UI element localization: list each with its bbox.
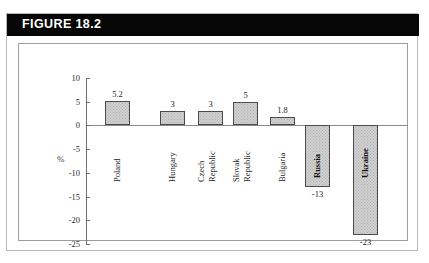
y-axis-tick-label: -15	[26, 193, 80, 201]
y-axis-tick	[86, 78, 90, 79]
bar-value-label: 5	[225, 91, 266, 100]
y-axis-tick-label: 10	[26, 74, 80, 82]
y-axis-tick-label: -25	[26, 240, 80, 248]
bar-category-label: Poland	[113, 159, 122, 183]
chart-plot-area: 1050-5-10-15-20-25 % 5.2Poland3Hungary3C…	[19, 44, 407, 240]
y-axis-tick-label: 0	[26, 121, 80, 129]
chart-bar	[233, 102, 258, 126]
y-axis-tick-label-wrap: -10	[19, 169, 86, 177]
figure-title: FIGURE 18.2	[22, 17, 101, 31]
chart-bar	[160, 111, 185, 125]
bar-category-label: Czech	[197, 161, 206, 182]
y-axis-tick	[86, 149, 90, 150]
figure-card: FIGURE 18.2 1050-5-10-15-20-25 % 5.2Pola…	[6, 13, 418, 251]
bar-value-label: 3	[190, 100, 231, 109]
y-axis-tick-label-wrap: -5	[19, 145, 86, 153]
y-axis-tick-label-wrap: -15	[19, 193, 86, 201]
bar-category-label: Ukraine	[361, 149, 370, 179]
bar-value-label: 5.2	[97, 90, 138, 99]
y-axis-tick-label-wrap: -25	[19, 240, 86, 248]
y-axis-tick	[86, 125, 90, 126]
y-axis-tick-label-wrap: 0	[19, 121, 86, 129]
bar-value-label: -23	[345, 238, 386, 247]
chart-bar	[353, 125, 378, 234]
chart-bar	[270, 117, 295, 126]
bar-value-label: -13	[297, 190, 338, 199]
bar-category-label: Republic	[208, 152, 217, 183]
bar-category-label: Republic	[243, 152, 252, 183]
y-axis-tick	[86, 244, 90, 245]
y-axis-tick	[86, 220, 90, 221]
y-axis-tick-label: -10	[26, 169, 80, 177]
y-axis-tick-label-wrap: 10	[19, 74, 86, 82]
y-axis-tick-label-wrap: 5	[19, 98, 86, 106]
chart-bar	[105, 101, 130, 126]
bar-category-label: Slovak	[232, 159, 241, 183]
chart-bar	[198, 111, 223, 125]
bar-value-label: 1.8	[262, 106, 303, 115]
y-axis-line	[86, 78, 87, 244]
y-axis-title: %	[57, 154, 65, 164]
bar-category-label: Hungary	[168, 153, 177, 183]
y-axis-tick	[86, 102, 90, 103]
bar-value-label: 3	[152, 100, 193, 109]
y-axis-tick-label: -5	[26, 145, 80, 153]
y-axis-tick	[86, 197, 90, 198]
y-axis-tick-label: -20	[26, 216, 80, 224]
figure-header-bar: FIGURE 18.2	[7, 14, 419, 36]
y-axis-tick-label-wrap: -20	[19, 216, 86, 224]
y-axis-tick-label: 5	[26, 98, 80, 106]
bar-category-label: Bulgaria	[278, 153, 287, 182]
chart-plot-frame: 1050-5-10-15-20-25 % 5.2Poland3Hungary3C…	[18, 43, 408, 241]
bar-category-label: Russia	[313, 154, 322, 178]
y-axis-tick	[86, 173, 90, 174]
